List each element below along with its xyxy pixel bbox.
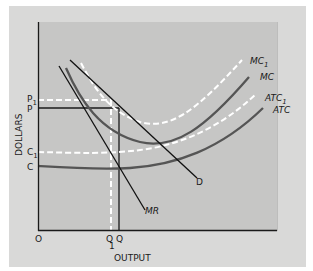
d-curve-label: D — [196, 177, 203, 187]
p-label: P — [27, 104, 33, 114]
c-label: C — [27, 162, 33, 172]
q-label: Q — [116, 234, 123, 244]
x-axis-title: OUTPUT — [114, 253, 151, 263]
mr-curve-label: MR — [145, 206, 159, 216]
atc-curve-label: ATC — [272, 105, 291, 115]
mc-curve-label: MC — [260, 72, 275, 82]
y-axis-title: DOLLARS — [14, 113, 24, 156]
origin-label: O — [35, 234, 42, 244]
c1-label: C1 — [27, 147, 38, 160]
q1-sub-label: 1 — [109, 241, 115, 251]
chart-svg: P1 P C1 C O Q 1 Q OUTPUT DOLLARS MC1 MC … — [0, 0, 313, 271]
